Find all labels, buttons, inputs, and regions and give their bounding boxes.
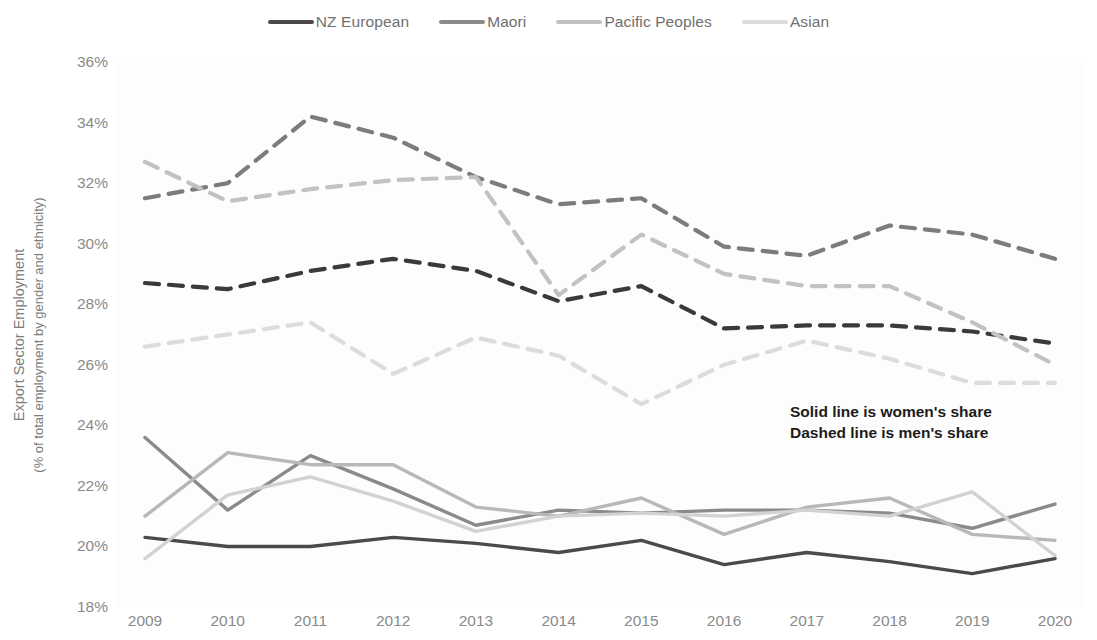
x-axis-tick-label: 2014 — [541, 612, 575, 630]
annotation-line-1: Solid line is women's share — [790, 401, 992, 422]
legend-swatch-icon — [439, 20, 485, 24]
annotation-line-2: Dashed line is men's share — [790, 422, 992, 443]
line-chart: NZ EuropeanMaoriPacific PeoplesAsian Exp… — [0, 0, 1097, 640]
y-axis-tick-label: 36% — [46, 53, 108, 71]
x-axis-tick-label: 2020 — [1038, 612, 1072, 630]
y-axis-tick-label: 26% — [46, 356, 108, 374]
y-axis-tick-label: 30% — [46, 235, 108, 253]
legend-swatch-icon — [742, 20, 788, 24]
legend-label: NZ European — [316, 13, 409, 31]
x-axis-tick-label: 2018 — [872, 612, 906, 630]
legend-swatch-icon — [268, 20, 314, 24]
legend-swatch-icon — [556, 20, 602, 24]
series-line-nz-european-women — [145, 537, 1055, 573]
x-axis-tick-label: 2019 — [955, 612, 989, 630]
x-axis-tick-label: 2017 — [790, 612, 824, 630]
legend-item[interactable]: Asian — [742, 13, 829, 31]
legend-item[interactable]: NZ European — [268, 13, 409, 31]
series-line-asian-men — [145, 322, 1055, 404]
chart-annotation: Solid line is women's share Dashed line … — [790, 401, 992, 443]
x-axis-tick-label: 2015 — [624, 612, 658, 630]
x-axis-tick-label: 2013 — [459, 612, 493, 630]
legend-label: Asian — [790, 13, 829, 31]
x-axis-tick-label: 2012 — [376, 612, 410, 630]
chart-legend: NZ EuropeanMaoriPacific PeoplesAsian — [0, 8, 1097, 36]
y-axis-tick-label: 32% — [46, 174, 108, 192]
series-line-pacific-peoples-men — [145, 162, 1055, 365]
y-axis-tick-label: 34% — [46, 114, 108, 132]
y-axis-tick-label: 18% — [46, 598, 108, 616]
legend-item[interactable]: Pacific Peoples — [556, 13, 711, 31]
y-axis-tick-label: 24% — [46, 416, 108, 434]
x-axis-tick-label: 2009 — [128, 612, 162, 630]
legend-label: Pacific Peoples — [604, 13, 711, 31]
series-line-nz-european-men — [145, 259, 1055, 344]
y-axis-tick-label: 22% — [46, 477, 108, 495]
x-axis-tick-label: 2010 — [210, 612, 244, 630]
x-axis-tick-label: 2016 — [707, 612, 741, 630]
legend-label: Maori — [487, 13, 526, 31]
legend-item[interactable]: Maori — [439, 13, 526, 31]
series-canvas — [117, 62, 1083, 607]
plot-area — [117, 62, 1083, 607]
y-axis-ticks: 18%20%22%24%26%28%30%32%34%36% — [38, 0, 108, 640]
y-axis-title-line1: Export Sector Employment — [11, 249, 27, 421]
series-line-pacific-peoples-women — [145, 453, 1055, 541]
y-axis-tick-label: 20% — [46, 537, 108, 555]
x-axis-tick-label: 2011 — [294, 612, 327, 630]
series-line-maori-men — [145, 117, 1055, 259]
y-axis-tick-label: 28% — [46, 295, 108, 313]
